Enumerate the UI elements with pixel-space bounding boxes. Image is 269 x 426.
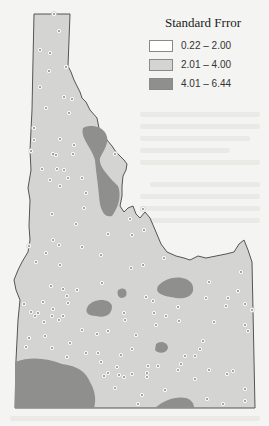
legend-swatch-low (149, 40, 173, 52)
legend-item-low: 0.22 – 2.00 (147, 36, 259, 55)
legend-label-low: 0.22 – 2.00 (181, 40, 231, 51)
legend-label-high: 4.01 – 6.44 (181, 78, 231, 89)
legend-swatch-high (149, 78, 173, 90)
legend-swatch-mid (149, 59, 173, 71)
legend-item-mid: 2.01 – 4.00 (147, 55, 259, 74)
legend-item-high: 4.01 – 6.44 (147, 74, 259, 93)
legend-label-mid: 2.01 – 4.00 (181, 59, 231, 70)
legend: Standard Frror 0.22 – 2.00 2.01 – 4.00 4… (147, 15, 259, 93)
legend-title: Standard Frror (147, 15, 259, 31)
